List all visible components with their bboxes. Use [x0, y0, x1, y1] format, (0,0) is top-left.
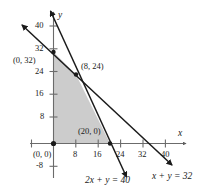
ytick-label-40: 40: [35, 21, 44, 30]
xtick-label-40: 40: [161, 150, 170, 159]
annotation-point-20-0: (20, 0): [78, 127, 101, 136]
point-0-0: [51, 141, 56, 146]
ytick-label-16: 16: [35, 89, 44, 98]
xtick-label-8: 8: [73, 150, 77, 159]
annotation-point-0-0: (0, 0): [33, 150, 51, 159]
equation-label-2x-plus-y-40: 2x + y = 40: [85, 176, 130, 186]
ytick-label-32: 32: [35, 44, 44, 53]
point-8-24: [74, 72, 78, 76]
point-0-32: [51, 50, 55, 54]
y-axis-label-x: x: [178, 129, 182, 139]
ytick-label-neg8: -8: [36, 161, 43, 170]
y-axis-label-y: y: [58, 11, 62, 21]
ytick-label-8: 8: [40, 112, 44, 121]
ytick-label-24: 24: [35, 67, 44, 76]
xtick-label-32: 32: [138, 150, 147, 159]
xtick-label-16: 16: [93, 150, 102, 159]
graph-figure: x y 40 32 24 16 8 -8 8 16 24 32 40 (0, 3…: [0, 0, 220, 195]
coordinate-plot: [0, 0, 220, 195]
annotation-point-0-32: (0, 32): [13, 56, 36, 65]
equation-label-x-plus-y-32: x + y = 32: [152, 172, 192, 182]
annotation-point-8-24: (8, 24): [81, 62, 104, 71]
point-20-0: [108, 141, 112, 145]
xtick-label-24: 24: [116, 150, 125, 159]
